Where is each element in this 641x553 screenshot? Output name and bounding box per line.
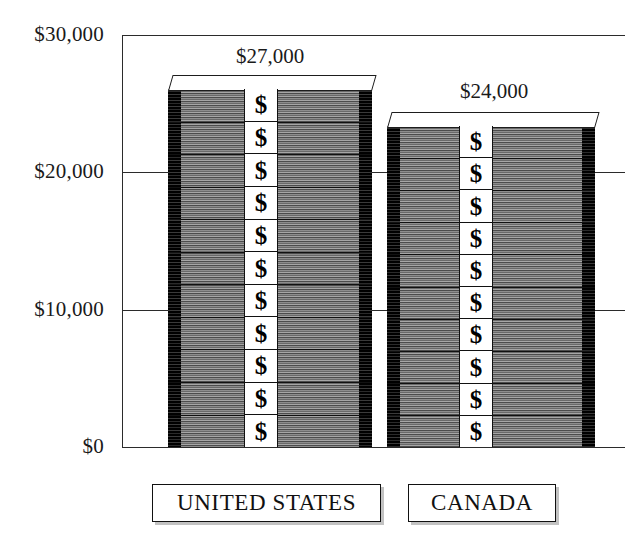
y-axis-tick-label-10000: $10,000 (0, 297, 104, 322)
dollar-glyph-icon: $ (460, 384, 492, 416)
gridline-30000 (122, 35, 625, 36)
dollar-glyph-icon: $ (460, 319, 492, 351)
y-axis-tick-label-20000: $20,000 (0, 159, 104, 184)
dollar-glyph-icon: $ (460, 287, 492, 319)
y-axis-tick-label-0: $0 (0, 434, 104, 459)
category-label-canada: CANADA (408, 484, 556, 522)
dollar-glyph-icon: $ (460, 223, 492, 255)
money-band-canada: $ $ $ $ $ $ $ $ $ $ (459, 126, 493, 447)
dollar-glyph-icon: $ (245, 415, 277, 447)
bar-chart: $30,000 $20,000 $10,000 $0 $27,000 $24,0… (0, 0, 641, 553)
dollar-glyph-icon: $ (245, 187, 277, 220)
dollar-glyph-icon: $ (245, 220, 277, 253)
bar-edge-left-icon (168, 89, 181, 447)
category-label-united-states: UNITED STATES (152, 484, 381, 522)
money-band-united-states: $ $ $ $ $ $ $ $ $ $ $ (244, 89, 278, 447)
dollar-glyph-icon: $ (460, 255, 492, 287)
value-label-united-states: $27,000 (175, 44, 365, 69)
dollar-glyph-icon: $ (245, 154, 277, 187)
axis-baseline (122, 447, 625, 448)
dollar-glyph-icon: $ (460, 416, 492, 447)
dollar-glyph-icon: $ (245, 252, 277, 285)
dollar-glyph-icon: $ (245, 89, 277, 122)
dollar-glyph-icon: $ (245, 383, 277, 416)
dollar-glyph-icon: $ (245, 285, 277, 318)
dollar-glyph-icon: $ (460, 190, 492, 222)
bar-top-face-canada (387, 112, 600, 128)
bar-edge-right-icon (359, 89, 372, 447)
bar-canada: $ $ $ $ $ $ $ $ $ $ (387, 112, 595, 447)
y-axis-line (122, 35, 123, 447)
y-axis-tick-label-30000: $30,000 (0, 22, 104, 47)
value-label-canada: $24,000 (396, 79, 592, 104)
dollar-glyph-icon: $ (245, 317, 277, 350)
bar-united-states: $ $ $ $ $ $ $ $ $ $ $ (168, 75, 372, 447)
dollar-glyph-icon: $ (245, 350, 277, 383)
dollar-glyph-icon: $ (460, 351, 492, 383)
dollar-glyph-icon: $ (460, 126, 492, 158)
dollar-glyph-icon: $ (245, 122, 277, 155)
dollar-glyph-icon: $ (460, 158, 492, 190)
